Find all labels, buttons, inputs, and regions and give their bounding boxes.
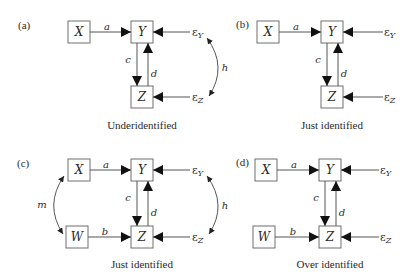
- error-epsilon-z: εZ: [380, 231, 392, 245]
- covariance-arc-m: [54, 176, 64, 234]
- error-epsilon-z: εZ: [192, 91, 204, 105]
- covariance-arc-h: [207, 38, 218, 96]
- path-label-a: a: [291, 159, 297, 170]
- covariance-arc-h: [207, 176, 218, 234]
- error-epsilon-z: εZ: [384, 91, 396, 105]
- svg-text:X: X: [261, 163, 271, 177]
- svg-text:X: X: [74, 163, 84, 177]
- svg-text:W: W: [258, 230, 272, 244]
- node-z: Z: [321, 86, 343, 108]
- node-x: X: [255, 159, 277, 181]
- error-epsilon-y: εY: [384, 26, 396, 40]
- node-z: Z: [131, 226, 153, 248]
- path-label-b: b: [102, 226, 108, 237]
- error-epsilon-z: εZ: [192, 231, 204, 245]
- svg-text:Y: Y: [138, 25, 147, 39]
- error-epsilon-y: εY: [380, 164, 392, 178]
- panel-label-a: (a): [18, 19, 31, 32]
- error-epsilon-y: εY: [192, 26, 204, 40]
- node-w: W: [253, 226, 275, 248]
- svg-text:X: X: [74, 25, 84, 39]
- node-y: Y: [131, 159, 153, 181]
- svg-text:X: X: [263, 25, 273, 39]
- panel-a: (a) X Y Z a c d εY εZ h Underidentified: [18, 19, 228, 131]
- caption-c: Just identified: [111, 258, 174, 270]
- path-label-c: c: [125, 192, 131, 203]
- error-epsilon-y: εY: [192, 164, 204, 178]
- svg-text:Y: Y: [328, 25, 337, 39]
- node-y: Y: [321, 21, 343, 43]
- path-diagram-figure: (a) X Y Z a c d εY εZ h Underidentified …: [0, 0, 414, 278]
- node-z: Z: [131, 86, 153, 108]
- node-z: Z: [319, 226, 341, 248]
- svg-text:Y: Y: [326, 163, 335, 177]
- caption-a: Underidentified: [107, 119, 177, 131]
- node-y: Y: [131, 21, 153, 43]
- path-label-h: h: [222, 62, 228, 73]
- node-x: X: [257, 21, 279, 43]
- caption-d: Over identified: [297, 258, 364, 270]
- node-w: W: [66, 226, 88, 248]
- path-label-c: c: [125, 54, 131, 65]
- node-y: Y: [319, 159, 341, 181]
- panel-b: (b) X Y Z a c d εY εZ Just identified: [236, 18, 396, 131]
- svg-text:Z: Z: [325, 230, 335, 244]
- path-label-m: m: [37, 199, 46, 210]
- caption-b: Just identified: [301, 119, 364, 131]
- path-label-c: c: [313, 192, 319, 203]
- node-x: X: [68, 21, 90, 43]
- panel-c: (c) X Y W Z a b c d εY εZ h: [17, 157, 228, 270]
- panel-label-d: (d): [236, 156, 249, 169]
- svg-text:W: W: [71, 230, 85, 244]
- svg-text:Z: Z: [327, 90, 337, 104]
- svg-text:Z: Z: [137, 90, 147, 104]
- path-label-h: h: [222, 200, 228, 211]
- path-label-d: d: [339, 207, 345, 218]
- path-label-a: a: [104, 21, 110, 32]
- panel-label-c: (c): [17, 157, 30, 170]
- node-x: X: [68, 159, 90, 181]
- path-label-b: b: [290, 226, 296, 237]
- path-label-a: a: [293, 21, 299, 32]
- path-label-a: a: [103, 159, 109, 170]
- svg-text:Y: Y: [138, 163, 147, 177]
- path-label-d: d: [341, 68, 347, 79]
- path-label-d: d: [151, 207, 157, 218]
- panel-d: (d) X Y W Z a b c d εY εZ Over identifie…: [236, 156, 392, 270]
- svg-text:Z: Z: [137, 230, 147, 244]
- path-label-c: c: [315, 54, 321, 65]
- panel-label-b: (b): [236, 18, 249, 31]
- path-label-d: d: [151, 68, 157, 79]
